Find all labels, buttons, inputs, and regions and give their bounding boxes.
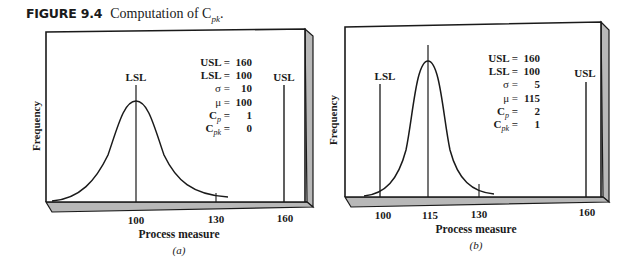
panel-a-x-axis-label: Process measure xyxy=(138,228,219,240)
panel-b: LSL USL USL = 160 LSL = 100 σ = 5 μ = 11… xyxy=(327,22,609,252)
stat-value: 1 xyxy=(247,109,253,121)
cp-letter: C xyxy=(497,105,505,117)
panel-a-base-shelf xyxy=(46,202,313,212)
tick-label: 100 xyxy=(128,214,145,226)
stat-label: USL = xyxy=(488,52,518,64)
stat-value: 100 xyxy=(524,65,541,77)
tick-label: 130 xyxy=(208,213,225,225)
stat-label: LSL = xyxy=(489,65,518,77)
stat-value: 160 xyxy=(524,52,541,64)
stat-value: 100 xyxy=(236,96,253,108)
tick-label: 160 xyxy=(277,212,294,224)
panel-a-usl-label: USL xyxy=(273,71,294,83)
panel-b-base-shelf xyxy=(345,197,609,207)
stat-label: μ = xyxy=(215,96,230,108)
cp-letter: C xyxy=(209,109,217,121)
stat-value: 2 xyxy=(535,105,541,117)
cp-equals: = xyxy=(509,105,518,117)
stat-value: 1 xyxy=(535,118,541,130)
tick-label: 100 xyxy=(375,209,392,221)
tick-label: 130 xyxy=(471,208,488,220)
cpk-equals: = xyxy=(221,122,230,134)
stat-value: 115 xyxy=(524,92,540,104)
panel-a-caption: (a) xyxy=(173,244,186,257)
panel-a-side-depth xyxy=(305,29,313,207)
panel-b-frame xyxy=(345,22,601,197)
panel-b-x-axis-label: Process measure xyxy=(435,223,516,235)
panel-a-lsl-label: LSL xyxy=(126,71,147,83)
panel-b-y-axis-label: Frequency xyxy=(327,95,339,145)
panel-b-lsl-label: LSL xyxy=(375,70,396,82)
tick-label: 115 xyxy=(422,209,438,221)
panel-b-usl-label: USL xyxy=(574,67,595,79)
stat-label: σ = xyxy=(503,78,518,90)
stat-label: LSL = xyxy=(201,69,230,81)
panel-a: LSL USL USL = 160 LSL = 100 σ = 10 μ = 1… xyxy=(30,29,313,257)
panel-a-y-axis-label: Frequency xyxy=(30,101,42,151)
cpk-letter: C xyxy=(205,122,213,134)
panel-a-frame xyxy=(46,29,305,202)
stat-value: 160 xyxy=(236,56,253,68)
stat-label: σ = xyxy=(215,82,230,94)
cp-equals: = xyxy=(221,109,230,121)
panel-b-x-ticks: 100 115 130 160 xyxy=(375,206,596,221)
stat-value: 100 xyxy=(236,69,253,81)
panel-b-side-depth xyxy=(601,22,609,202)
figure-canvas: LSL USL USL = 160 LSL = 100 σ = 10 μ = 1… xyxy=(0,0,638,269)
stat-value: 0 xyxy=(247,122,253,134)
panel-b-caption: (b) xyxy=(470,239,483,252)
stat-value: 5 xyxy=(535,78,541,90)
cpk-letter: C xyxy=(493,118,501,130)
stat-label: μ = xyxy=(503,92,518,104)
tick-label: 160 xyxy=(579,206,596,218)
stat-label: USL = xyxy=(200,56,230,68)
stat-value: 10 xyxy=(241,82,253,94)
panel-a-x-ticks: 100 130 160 xyxy=(128,212,294,226)
cpk-equals: = xyxy=(509,118,518,130)
